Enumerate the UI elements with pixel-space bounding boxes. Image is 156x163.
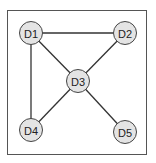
node-label: D5 [118,127,132,139]
node-d4: D4 [20,119,43,142]
node-label: D4 [24,125,38,137]
nodes: D1 D2 D3 D4 D5 [20,22,137,144]
network-graph: D1 D2 D3 D4 D5 [0,0,156,163]
node-label: D2 [118,28,132,40]
node-d1: D1 [20,22,43,45]
node-label: D1 [24,28,38,40]
node-label: D3 [71,76,85,88]
node-d3: D3 [67,70,90,93]
node-d5: D5 [114,121,137,144]
node-d2: D2 [114,22,137,45]
